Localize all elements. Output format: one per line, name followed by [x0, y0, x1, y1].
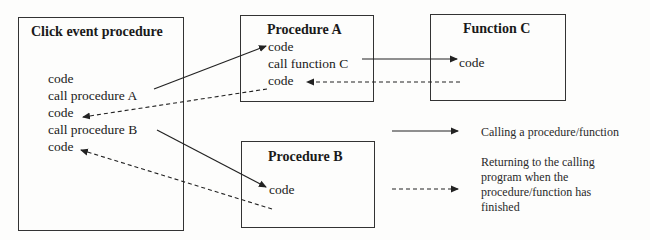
legend-return-line-1: Returning to the calling [481, 155, 595, 170]
click-event-line-4: call procedure B [48, 122, 137, 138]
procedure-a-line-1: code [268, 39, 293, 55]
function-c-line-1: code [459, 55, 484, 71]
procedure-a-title: Procedure A [267, 22, 342, 38]
procedure-a-line-3: code [268, 73, 293, 89]
legend-return-line-2: program when the [481, 170, 595, 185]
legend-return-line-4: finished [481, 200, 595, 215]
legend-call-label: Calling a procedure/function [481, 125, 619, 140]
click-event-line-2: call procedure A [48, 88, 137, 104]
click-event-line-3: code [48, 105, 73, 121]
procedure-b-line-1: code [269, 182, 294, 198]
legend-return-label: Returning to the calling program when th… [481, 155, 595, 215]
procedure-a-line-2: call function C [268, 56, 348, 72]
click-event-line-5: code [48, 139, 73, 155]
function-c-title: Function C [463, 21, 530, 37]
procedure-b-title: Procedure B [268, 149, 343, 165]
click-event-line-1: code [48, 71, 73, 87]
legend-return-line-3: procedure/function has [481, 185, 595, 200]
click-event-procedure-title: Click event procedure [31, 24, 163, 40]
